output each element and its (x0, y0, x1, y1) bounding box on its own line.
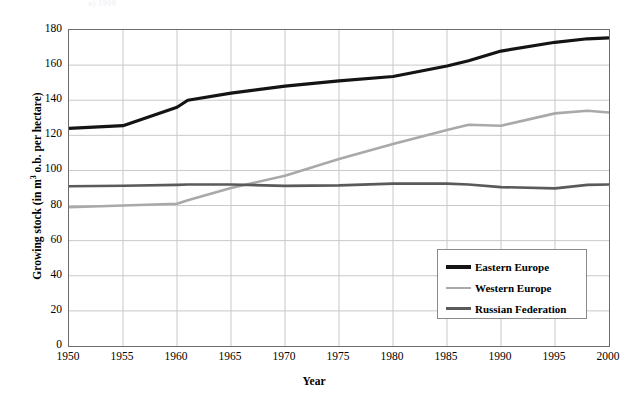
y-axis-tick-label: 0 (22, 339, 62, 351)
top-caption: a) 1990 (88, 0, 116, 8)
x-axis-tick-label: 1985 (416, 350, 476, 362)
y-axis-tick-label: 80 (22, 199, 62, 211)
x-axis-tick-label: 1990 (470, 350, 530, 362)
x-axis-tick-label: 1970 (254, 350, 314, 362)
y-axis-tick-label: 20 (22, 304, 62, 316)
x-axis-tick-label: 1950 (38, 350, 98, 362)
x-axis-tick-label: 1955 (92, 350, 152, 362)
legend-item-label: Eastern Europe (475, 261, 549, 273)
x-axis-tick-label: 1980 (362, 350, 422, 362)
x-axis-tick-label: 1995 (524, 350, 584, 362)
x-axis-tick-label: 1965 (200, 350, 260, 362)
y-axis-tick-label: 60 (22, 234, 62, 246)
y-axis-title: Growing stock (in m3 o.b. per hectare) (31, 36, 43, 336)
legend-item: Eastern Europe (446, 257, 586, 276)
y-axis-title-superscript: 3 (29, 175, 38, 179)
legend-item: Russian Federation (446, 299, 586, 318)
y-axis-tick-label: 160 (22, 58, 62, 70)
legend-item: Western Europe (446, 278, 586, 297)
chart-figure: a) 1990 Growing stock (in m3 o.b. per he… (0, 0, 628, 411)
legend-line-swatch-icon (446, 307, 471, 310)
x-axis-tick-label: 2000 (578, 350, 628, 362)
y-axis-tick-label: 100 (22, 163, 62, 175)
legend-line-swatch-icon (446, 287, 471, 289)
y-axis-tick-label: 180 (22, 23, 62, 35)
legend-item-label: Western Europe (475, 282, 552, 294)
legend-line-swatch-icon (446, 265, 471, 269)
x-axis-tick-label: 1975 (308, 350, 368, 362)
x-axis-tick-label: 1960 (146, 350, 206, 362)
y-axis-title-prefix: Growing stock (in m (31, 179, 43, 279)
y-axis-tick-label: 140 (22, 93, 62, 105)
y-axis-tick-label: 120 (22, 128, 62, 140)
x-axis-title: Year (0, 375, 628, 387)
y-axis-tick-label: 40 (22, 269, 62, 281)
legend-item-label: Russian Federation (475, 303, 566, 315)
chart-legend: Eastern EuropeWestern EuropeRussian Fede… (437, 249, 587, 319)
